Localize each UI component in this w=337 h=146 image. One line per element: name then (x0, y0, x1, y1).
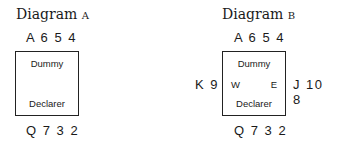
diagram-b-north-hand: A 6 5 4 (234, 30, 285, 45)
diagram-a-title: Diagram A (16, 6, 90, 22)
diagram-b-east-hand: J 10 8 (293, 77, 337, 107)
west-label: W (231, 79, 240, 90)
declarer-label: Declarer (223, 98, 285, 109)
title-letter: B (288, 10, 296, 21)
diagram-b-title: Diagram B (222, 6, 296, 22)
diagram-a-south-hand: Q 7 3 2 (26, 123, 79, 138)
diagram-b-table-box: Dummy W E Declarer (222, 51, 286, 116)
diagram-b-south-hand: Q 7 3 2 (234, 123, 287, 138)
declarer-label: Declarer (16, 98, 78, 109)
title-prefix: Diagram (16, 6, 77, 22)
dummy-label: Dummy (223, 58, 285, 69)
diagram-a-table-box: Dummy Declarer (15, 51, 79, 116)
diagram-b-west-hand: K 9 (195, 77, 219, 92)
dummy-label: Dummy (16, 58, 78, 69)
diagram-a-north-hand: A 6 5 4 (26, 30, 77, 45)
title-letter: A (82, 10, 90, 21)
east-label: E (271, 79, 277, 90)
title-prefix: Diagram (222, 6, 283, 22)
